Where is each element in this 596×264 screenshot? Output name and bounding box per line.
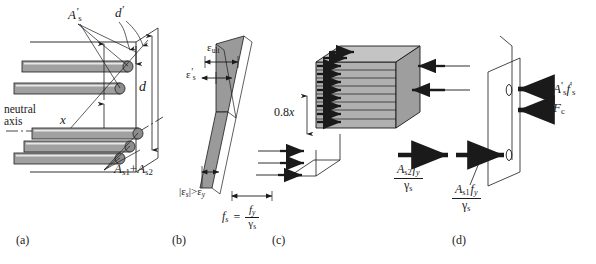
tension-bar-1 xyxy=(32,128,143,139)
compression-steel-label: A's xyxy=(68,6,82,23)
figure-vector-graphics xyxy=(0,0,596,264)
ultimate-strain-label: εult xyxy=(207,42,220,55)
tension-force-1-label: As1fy γs xyxy=(452,183,481,214)
panel-label-d: (d) xyxy=(452,234,466,247)
tension-steel-stress-arrows xyxy=(278,151,304,175)
tension-bars xyxy=(14,128,143,164)
tension-bar-2 xyxy=(24,141,135,152)
neutral-axis-label: neutral axis xyxy=(4,104,36,127)
reinforced-concrete-beam-figure: A's d' d neutral axis x As1+As2 (a) εult… xyxy=(0,0,596,264)
panel-label-b: (b) xyxy=(172,234,186,247)
panel-a-section-drawing xyxy=(6,21,163,172)
panel-b-strain-diagram xyxy=(200,36,252,194)
compression-steel-leader-lines xyxy=(78,24,136,88)
panel-label-c: (c) xyxy=(272,234,285,247)
force-node-compression-steel xyxy=(506,85,512,96)
compression-bar-upper xyxy=(22,61,133,72)
cover-depth-label: d' xyxy=(115,4,124,19)
force-reference-plane xyxy=(488,58,520,186)
tension-force-1-leader-line xyxy=(470,158,481,185)
stress-block-depth-label: 0.8x xyxy=(274,106,294,119)
tension-steel-label: As1+As2 xyxy=(114,162,153,178)
stress-block-reaction-tails xyxy=(445,66,470,90)
compression-steel-strain-label: ε's xyxy=(186,68,196,82)
compression-bar-lower xyxy=(14,83,125,94)
force-node-tension-steel xyxy=(506,150,512,161)
panel-c-stress-block xyxy=(232,46,470,201)
concrete-force-label: Fc xyxy=(553,101,565,117)
neutral-axis-depth-label: x xyxy=(60,113,66,127)
tension-bar-3 xyxy=(14,153,125,164)
steel-stress-equation: fs = fy γs xyxy=(222,204,259,231)
force-plane-top-edge xyxy=(500,36,512,46)
panel-label-a: (a) xyxy=(16,234,29,247)
compression-steel-force-label: A'sf's xyxy=(553,80,575,97)
stress-block-front-face xyxy=(316,62,396,128)
tension-strain-condition-label: |εs|>εy xyxy=(179,186,205,199)
tension-steel-stress-plane xyxy=(290,134,340,176)
effective-depth-label: d xyxy=(139,80,146,95)
tension-force-2-label: As2fy γs xyxy=(394,163,423,194)
steel-stress-dimension xyxy=(232,191,272,201)
tension-steel-stress-tails xyxy=(256,151,280,175)
